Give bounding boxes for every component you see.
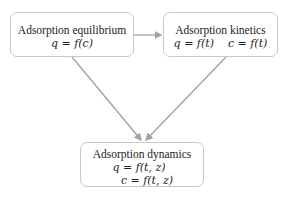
node-equation: q = f(c)	[11, 37, 133, 50]
node-kinetics: Adsorption kinetics q = f(t) c = f(t)	[163, 12, 278, 57]
node-equation-q: q = f(t, z)	[75, 161, 203, 174]
arrow-kinetics-to-dynamics	[146, 57, 226, 140]
node-equilibrium: Adsorption equilibrium q = f(c)	[10, 12, 134, 57]
node-equation-c: c = f(t, z)	[91, 174, 203, 187]
node-title: Adsorption dynamics	[81, 148, 203, 161]
node-equation: q = f(t) c = f(t)	[164, 37, 277, 50]
node-dynamics: Adsorption dynamics q = f(t, z) c = f(t,…	[80, 142, 204, 187]
node-title: Adsorption equilibrium	[11, 24, 133, 37]
arrow-equilibrium-to-dynamics	[72, 57, 141, 140]
node-title: Adsorption kinetics	[164, 24, 277, 37]
